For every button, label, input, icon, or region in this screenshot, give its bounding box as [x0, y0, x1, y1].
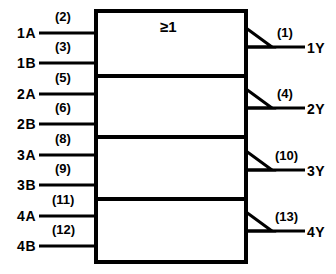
pin-number-1y: (1) — [277, 26, 293, 39]
input-label-2b: 2B — [6, 117, 36, 131]
output-label-1y: 1Y — [307, 41, 325, 55]
pin-number-3y: (10) — [275, 149, 298, 162]
output-label-4y: 4Y — [307, 225, 325, 239]
output-amplifier-triangle-1 — [246, 28, 272, 47]
input-label-4a: 4A — [6, 209, 36, 223]
input-label-1b: 1B — [6, 56, 36, 70]
pin-number-2y: (4) — [277, 87, 293, 100]
pin-number-3a: (8) — [55, 132, 71, 145]
pin-number-1b: (3) — [55, 40, 71, 53]
output-amplifier-triangle-2 — [246, 89, 272, 108]
input-label-1a: 1A — [6, 26, 36, 40]
output-label-2y: 2Y — [307, 102, 325, 116]
pin-number-1a: (2) — [55, 10, 71, 23]
qualifying-symbol-or: ≥1 — [160, 19, 177, 34]
input-label-3a: 3A — [6, 148, 36, 162]
pin-number-3b: (9) — [55, 162, 71, 175]
logic-symbol-diagram: ≥1 1A (2) 1B (3) (1) 1Y 2A (5) 2B (6) (4… — [0, 0, 336, 274]
input-label-3b: 3B — [6, 178, 36, 192]
pin-number-4a: (11) — [52, 193, 74, 206]
input-label-4b: 4B — [6, 239, 36, 253]
pin-number-4y: (13) — [275, 210, 298, 223]
pin-number-2a: (5) — [55, 71, 71, 84]
output-amplifier-triangle-4 — [246, 212, 272, 231]
pin-number-4b: (12) — [52, 223, 75, 236]
input-label-2a: 2A — [6, 87, 36, 101]
output-amplifier-triangle-3 — [246, 151, 272, 170]
output-label-3y: 3Y — [307, 164, 325, 178]
pin-number-2b: (6) — [55, 101, 71, 114]
diagram-canvas — [0, 0, 336, 274]
